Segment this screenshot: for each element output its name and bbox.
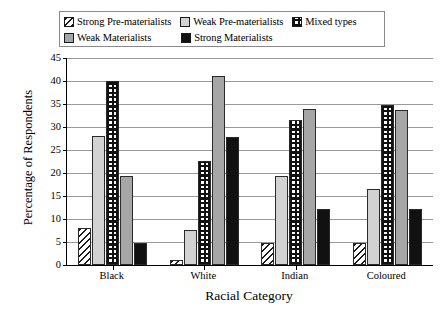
bar (184, 230, 197, 265)
bar (395, 110, 408, 265)
bar (303, 109, 316, 265)
bar (261, 243, 274, 265)
y-axis-tick-mark (63, 265, 67, 266)
bar (106, 81, 119, 265)
legend-item-label: Weak Pre-materialists (193, 17, 283, 28)
x-axis-tick-label: Indian (249, 270, 341, 281)
legend-swatch-icon (64, 33, 74, 43)
bar (353, 243, 366, 265)
bar (226, 137, 239, 265)
legend-item-label: Strong Pre-materialists (77, 17, 171, 28)
legend-swatch-icon (64, 17, 74, 27)
legend-item-mixed-types: Mixed types (292, 17, 356, 28)
bar-group (67, 58, 159, 265)
bar-groups (67, 58, 433, 265)
bar (78, 228, 91, 265)
bar (367, 189, 380, 265)
bar (409, 209, 422, 265)
legend-item-label: Mixed types (305, 17, 356, 28)
bar-group (250, 58, 342, 265)
y-axis-tick-label: 35 (51, 99, 62, 110)
x-axis-tick-label: Black (66, 270, 158, 281)
legend-swatch-icon (180, 17, 190, 27)
legend-row-2: Weak Materialists Strong Materialists (64, 30, 380, 46)
legend-item-weak-materialists: Weak Materialists (64, 33, 151, 44)
legend-item-label: Strong Materialists (194, 33, 272, 44)
y-axis-tick-label: 30 (51, 122, 62, 133)
y-axis-tick-label: 15 (51, 191, 62, 202)
bar (170, 260, 183, 265)
bar (275, 176, 288, 265)
bar (198, 161, 211, 265)
y-axis-tick-label: 5 (56, 237, 61, 248)
y-axis-tick-label: 45 (51, 53, 62, 64)
legend-item-weak-pre-materialists: Weak Pre-materialists (180, 17, 283, 28)
legend-row-1: Strong Pre-materialists Weak Pre-materia… (64, 14, 380, 30)
x-axis-tick-labels: BlackWhiteIndianColoured (66, 270, 432, 281)
x-axis-tick-label: White (158, 270, 250, 281)
bar (212, 76, 225, 265)
y-axis-tick-label: 40 (51, 76, 62, 87)
plot-area: 051015202530354045 (66, 58, 433, 266)
bar (120, 176, 133, 265)
bar (92, 136, 105, 265)
legend-swatch-icon (292, 17, 302, 27)
y-axis-tick-label: 0 (56, 260, 61, 271)
legend-swatch-icon (181, 33, 191, 43)
bar (381, 105, 394, 265)
x-axis-title: Racial Category (66, 288, 432, 304)
bar (289, 120, 302, 265)
chart-legend: Strong Pre-materialists Weak Pre-materia… (59, 11, 385, 47)
x-axis-tick-label: Coloured (341, 270, 433, 281)
bar (134, 243, 147, 265)
y-axis-title: Percentage of Respondents (21, 68, 36, 248)
legend-item-label: Weak Materialists (77, 33, 151, 44)
y-axis-tick-label: 10 (51, 214, 62, 225)
bar-chart: Strong Pre-materialists Weak Pre-materia… (0, 0, 443, 322)
y-axis-tick-label: 20 (51, 168, 62, 179)
bar-group (159, 58, 251, 265)
bar (317, 209, 330, 265)
legend-item-strong-materialists: Strong Materialists (181, 33, 272, 44)
legend-item-strong-pre-materialists: Strong Pre-materialists (64, 17, 171, 28)
y-axis-tick-label: 25 (51, 145, 62, 156)
bar-group (342, 58, 434, 265)
